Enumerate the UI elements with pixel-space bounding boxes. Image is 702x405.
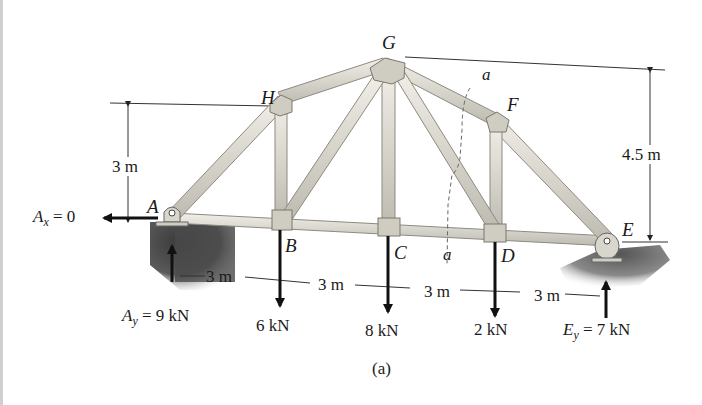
reaction-Ey-sub: y [573, 328, 578, 342]
reaction-Ey: Ey = 7 kN [563, 321, 630, 338]
load-C: 8 kN [365, 322, 399, 339]
reaction-Ay-value: = 9 kN [142, 306, 189, 325]
load-D: 2 kN [474, 321, 508, 338]
member-GC [382, 66, 395, 228]
reaction-Ax-value: = 0 [53, 207, 75, 226]
section-label-top: a [482, 66, 491, 83]
reaction-Ey-value: = 7 kN [583, 320, 630, 339]
joint-label-H: H [261, 88, 275, 107]
dim-span-BC: 3 m [318, 276, 344, 293]
reaction-Ax-sub: x [43, 215, 48, 229]
dim-height-G: 4.5 m [622, 145, 661, 164]
joint-label-C: C [394, 243, 407, 262]
reaction-Ay: Ay = 9 kN [122, 307, 189, 324]
reaction-Ax-symbol: A [33, 207, 43, 226]
joint-label-D: D [501, 246, 515, 265]
figure-caption: (a) [372, 360, 391, 377]
joint-label-G: G [382, 33, 396, 52]
dim-span-AB: 3 m [206, 268, 232, 285]
joint-label-F: F [507, 95, 519, 114]
reaction-Ey-symbol: E [563, 320, 573, 339]
gusset-C [378, 218, 400, 236]
section-label-bottom: a [443, 246, 452, 263]
joint-label-E: E [622, 220, 634, 239]
dim-span-DE: 3 m [534, 287, 560, 304]
gusset-B [272, 210, 292, 230]
reaction-Ay-symbol: A [122, 306, 132, 325]
reaction-Ax: Ax = 0 [33, 208, 75, 225]
member-HB [275, 100, 287, 220]
truss-diagram [0, 0, 702, 405]
gusset-D [484, 224, 506, 242]
member-FE [488, 113, 614, 244]
reaction-Ay-sub: y [132, 314, 137, 328]
joint-label-A: A [147, 197, 159, 216]
member-AH [168, 96, 288, 220]
load-B: 6 kN [256, 317, 290, 334]
dim-height-H: 3 m [112, 157, 138, 176]
dim-span-CD: 3 m [424, 283, 450, 300]
joint-label-B: B [285, 236, 297, 255]
